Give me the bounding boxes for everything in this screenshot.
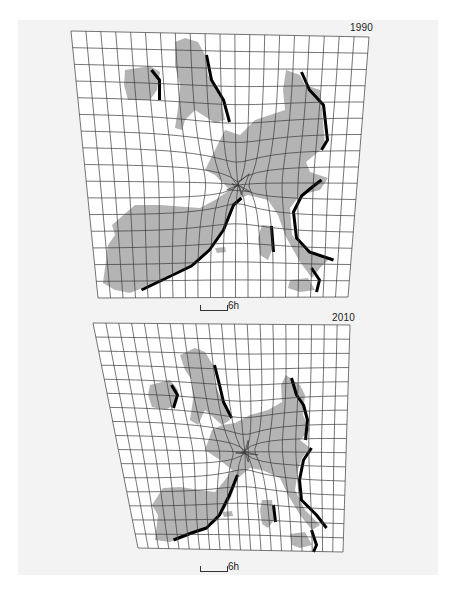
time-space-maps	[0, 0, 454, 589]
coast-shadow	[274, 505, 276, 522]
map-year-label-1990: 1990	[350, 22, 373, 33]
scale-bar-line	[200, 566, 228, 572]
map-2010	[93, 323, 350, 552]
land-baleares	[215, 247, 226, 253]
map-year-label-2010: 2010	[332, 312, 355, 323]
scale-bar-line	[200, 305, 228, 311]
scale-bar-label: 6h	[228, 561, 239, 572]
scale-bar-label: 6h	[228, 300, 239, 311]
map-1990	[71, 31, 369, 298]
